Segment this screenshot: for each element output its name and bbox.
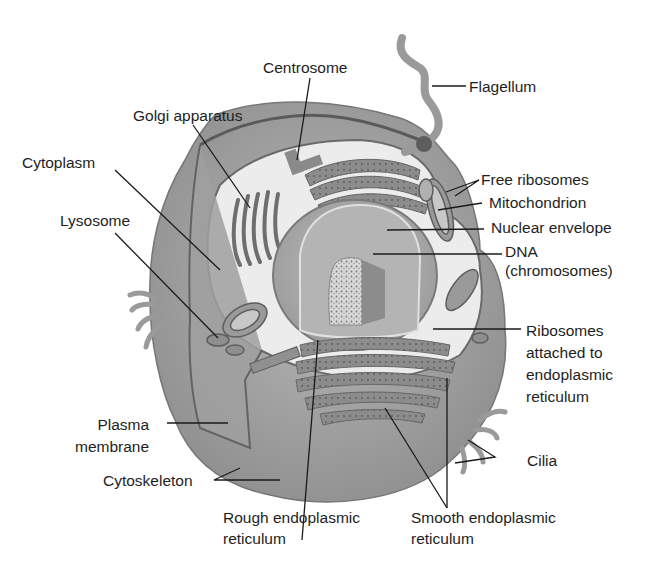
label-cytoplasm: Cytoplasm — [22, 153, 95, 172]
label-ribosomes-line4: reticulum — [526, 386, 613, 408]
label-smooth-er-line2: reticulum — [411, 528, 556, 549]
label-plasma-line1: Plasma — [75, 414, 149, 436]
label-centrosome: Centrosome — [263, 58, 347, 77]
label-cytoskeleton: Cytoskeleton — [103, 471, 193, 490]
label-rough-er: Rough endoplasmic reticulum — [223, 507, 360, 549]
label-cilia: Cilia — [527, 451, 557, 470]
label-ribosomes-line1: Ribosomes — [526, 320, 613, 342]
animal-cell-diagram: Centrosome Flagellum Golgi apparatus Cyt… — [0, 0, 655, 564]
label-dna-line1: DNA — [505, 242, 613, 261]
nucleus — [273, 200, 437, 350]
chromatin — [329, 258, 362, 325]
label-ribosomes-attached-er: Ribosomes attached to endoplasmic reticu… — [526, 320, 613, 408]
label-rough-er-line1: Rough endoplasmic — [223, 507, 360, 528]
label-nuclear-envelope: Nuclear envelope — [491, 218, 612, 237]
label-golgi-apparatus: Golgi apparatus — [133, 106, 242, 125]
label-plasma-membrane: Plasma membrane — [75, 414, 149, 458]
label-flagellum: Flagellum — [469, 77, 536, 96]
label-smooth-er: Smooth endoplasmic reticulum — [411, 507, 556, 549]
label-free-ribosomes: Free ribosomes — [481, 170, 589, 189]
basal-body — [416, 136, 432, 152]
label-dna: DNA (chromosomes) — [505, 242, 613, 280]
label-ribosomes-line3: endoplasmic — [526, 364, 613, 386]
label-mitochondrion: Mitochondrion — [489, 193, 586, 212]
label-rough-er-line2: reticulum — [223, 528, 360, 549]
label-dna-line2: (chromosomes) — [505, 261, 613, 280]
label-plasma-line2: membrane — [75, 436, 149, 458]
cell-illustration — [0, 0, 655, 564]
label-lysosome: Lysosome — [60, 211, 130, 230]
label-ribosomes-line2: attached to — [526, 342, 613, 364]
label-smooth-er-line1: Smooth endoplasmic — [411, 507, 556, 528]
